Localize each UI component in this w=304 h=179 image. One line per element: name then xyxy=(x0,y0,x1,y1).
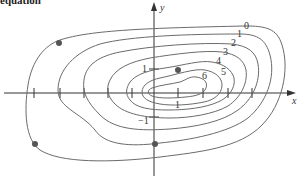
contour-6 xyxy=(148,77,206,98)
contour-label-5: 5 xyxy=(221,66,226,77)
contour-label-2: 2 xyxy=(231,37,236,48)
contour-label-4: 4 xyxy=(216,55,221,66)
point-dot xyxy=(32,141,38,147)
point-dot xyxy=(175,67,181,73)
y-axis-label: y xyxy=(159,2,165,13)
contour-label-6: 6 xyxy=(202,70,207,81)
contour-label-0: 0 xyxy=(244,20,249,31)
y-tick-label-1: 1 xyxy=(142,63,147,74)
point-dot xyxy=(56,40,62,46)
contour-label-1: 1 xyxy=(237,28,242,39)
contour-labels: 0 1 2 3 4 5 6 xyxy=(202,20,249,81)
contour-1 xyxy=(58,34,272,145)
contour-diagram: 0 1 2 3 4 5 6 y x 1 −1 1 xyxy=(0,0,304,179)
x-axis-label: x xyxy=(291,95,297,106)
x-tick-label-1: 1 xyxy=(175,99,180,110)
point-dot xyxy=(152,141,158,147)
y-axis-arrow-icon xyxy=(151,2,157,11)
contour-label-3: 3 xyxy=(223,46,228,57)
y-tick-label-neg1: −1 xyxy=(138,115,149,126)
contour-2 xyxy=(84,43,259,129)
